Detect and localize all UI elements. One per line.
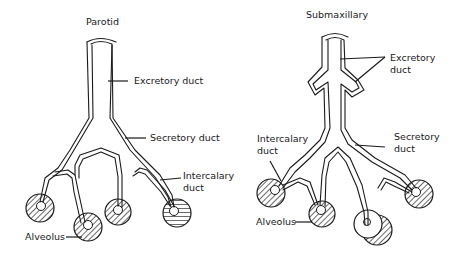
submax-secretory-duct-label-line2: duct <box>394 143 415 155</box>
submax-excretory-duct-label-line1: Excretory <box>390 52 435 64</box>
parotid-intercalary-duct-label-line2: duct <box>183 182 204 194</box>
salivary-gland-duct-diagram: Parotid Excretory duct Secretory duct In… <box>0 0 457 266</box>
duct-drawings <box>0 0 457 266</box>
parotid-secretory-duct-label: Secretory duct <box>150 132 220 144</box>
submax-excretory-leader-2 <box>355 57 385 82</box>
submax-intercalary-duct-label-line1: Intercalary <box>257 133 308 145</box>
parotid-intercalary-leader <box>160 178 181 180</box>
submaxillary-title: Submaxillary <box>306 9 368 21</box>
submax-alveolus-label: Alveolus <box>256 216 296 228</box>
parotid-alveolus-label: Alveolus <box>25 231 65 243</box>
parotid-excretory-duct-label: Excretory duct <box>134 75 203 87</box>
parotid-intercalary-duct-label-line1: Intercalary <box>183 170 234 182</box>
submax-excretory-duct-label-line2: duct <box>390 64 411 76</box>
submax-intercalary-duct-label-line2: duct <box>257 145 278 157</box>
submax-excretory-leader-1 <box>340 57 385 59</box>
parotid-title: Parotid <box>86 16 119 28</box>
submax-intercalary-leader <box>270 161 281 181</box>
submax-secretory-duct-label-line1: Secretory <box>394 131 440 143</box>
